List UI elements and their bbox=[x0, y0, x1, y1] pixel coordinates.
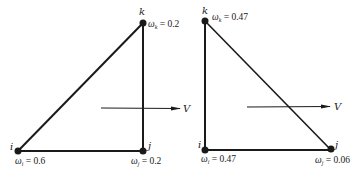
left-triangle: V i j k ωi = 0.6 ωj = 0.2 ωk = 0.2 bbox=[10, 6, 192, 167]
velocity-label: V bbox=[183, 103, 192, 114]
node-i-weight: ωi = 0.6 bbox=[15, 156, 46, 167]
triangle-element-diagrams: V i j k ωi = 0.6 ωj = 0.2 ωk = 0.2 V i j… bbox=[0, 0, 357, 177]
velocity-arrow bbox=[247, 107, 330, 108]
node-j-label: j bbox=[146, 140, 151, 151]
node-k-label: k bbox=[139, 6, 145, 17]
edge-i-k bbox=[18, 23, 143, 151]
node-k bbox=[140, 20, 147, 27]
edge-k-j bbox=[205, 21, 331, 150]
right-triangle: V i j k ωi = 0.47 ωj = 0.06 ωk = 0.47 bbox=[198, 5, 350, 166]
node-j-weight: ωj = 0.06 bbox=[315, 155, 350, 166]
node-k-weight: ωk = 0.47 bbox=[212, 12, 248, 23]
node-i bbox=[202, 147, 209, 154]
node-j bbox=[328, 146, 335, 153]
node-i bbox=[15, 148, 22, 155]
velocity-arrow bbox=[101, 108, 180, 109]
node-i-weight: ωi = 0.47 bbox=[201, 154, 236, 165]
node-k-weight: ωk = 0.2 bbox=[148, 19, 180, 30]
node-k-label: k bbox=[202, 5, 208, 16]
node-i-label: i bbox=[10, 141, 13, 152]
node-j bbox=[140, 148, 147, 155]
velocity-label: V bbox=[334, 101, 343, 112]
node-k bbox=[202, 18, 209, 25]
node-i-label: i bbox=[198, 139, 201, 150]
node-j-weight: ωj = 0.2 bbox=[131, 156, 162, 167]
